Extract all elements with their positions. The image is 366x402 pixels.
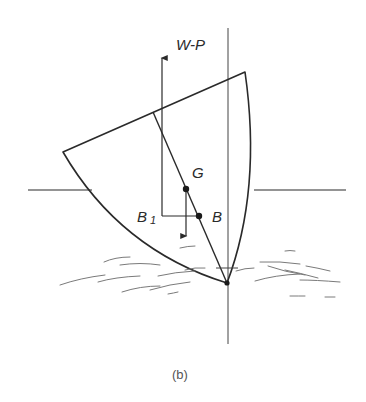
label-b1-subscript: 1 xyxy=(150,214,156,226)
hull-stability-diagram: W-P G B B 1 (b) xyxy=(0,0,366,402)
hull-outline xyxy=(63,72,251,283)
label-b1: B xyxy=(137,208,147,225)
label-b: B xyxy=(212,208,222,225)
point-keel xyxy=(224,280,229,285)
label-force-w-p: W-P xyxy=(176,36,205,53)
water-surface-strokes xyxy=(60,246,340,297)
label-g: G xyxy=(192,164,204,181)
point-g xyxy=(183,186,189,192)
point-b xyxy=(196,213,202,219)
hull-symmetry-axis xyxy=(153,112,227,283)
figure-caption: (b) xyxy=(172,367,188,382)
